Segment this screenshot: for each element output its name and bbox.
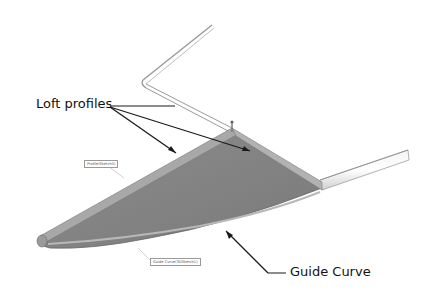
guide-curve-leader [226, 231, 286, 273]
wing-loft-model [0, 0, 432, 294]
lofted-surface [37, 120, 322, 248]
trailing-guide-tube [320, 150, 409, 190]
profile-tag: Profile(Sketch5) [84, 160, 118, 168]
guide-curve-label: Guide Curve [290, 264, 371, 279]
guide-curve-tag: Guide Curve(3DSketch1) [150, 258, 201, 266]
loft-profiles-label: Loft profiles [36, 96, 112, 111]
upper-guide-wire [142, 25, 232, 133]
